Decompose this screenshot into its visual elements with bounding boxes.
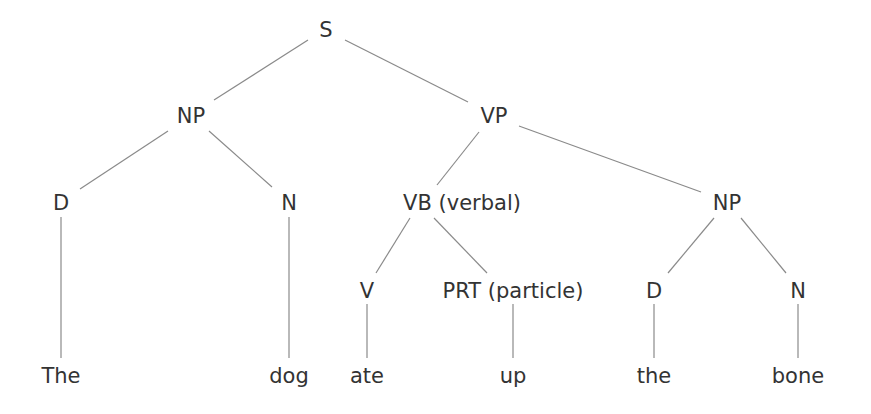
tree-node-w-up: up [500, 366, 527, 387]
edge-vb-prt [434, 218, 487, 273]
tree-node-vp: VP [480, 106, 507, 127]
tree-node-vb: VB (verbal) [403, 193, 521, 214]
tree-node-s: S [319, 20, 332, 41]
tree-node-w-the: The [41, 366, 80, 387]
edge-vb-v [376, 218, 410, 273]
tree-node-np2: NP [713, 193, 741, 214]
tree-node-n2: N [790, 281, 806, 302]
tree-node-w-bone: bone [772, 366, 824, 387]
edge-np2-n2 [741, 218, 786, 273]
edge-s-vp [345, 40, 468, 102]
tree-node-v: V [360, 281, 374, 302]
tree-node-w-the: the [637, 366, 671, 387]
tree-node-w-dog: dog [269, 366, 309, 387]
tree-node-prt: PRT (particle) [443, 281, 584, 302]
edge-s-np1 [214, 40, 308, 100]
edge-vp-vb [437, 132, 479, 185]
edge-np1-d1 [80, 131, 168, 189]
edge-np2-d2 [668, 218, 714, 273]
edge-np1-n1 [209, 131, 272, 187]
tree-node-n1: N [281, 193, 297, 214]
tree-node-d1: D [53, 193, 69, 214]
tree-node-d2: D [646, 281, 662, 302]
edge-vp-np2 [519, 126, 701, 192]
tree-node-w-ate: ate [350, 366, 384, 387]
tree-node-np1: NP [177, 106, 205, 127]
